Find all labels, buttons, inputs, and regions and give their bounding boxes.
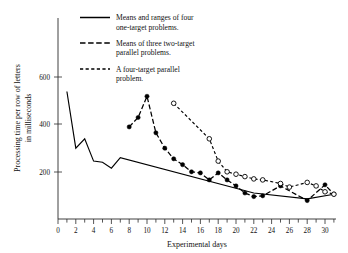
x-tick-label-6: 6 xyxy=(110,227,114,235)
chart-legend: Means and ranges of four one-target prob… xyxy=(80,13,195,83)
legend-label-one-target-line2: one-target problems. xyxy=(116,23,179,32)
series-two-target-markers xyxy=(127,94,336,202)
x-tick-label-0: 0 xyxy=(56,227,60,235)
x-tick-label-10: 10 xyxy=(143,227,151,235)
legend-label-four-target-line1: A four-target parallel xyxy=(116,65,180,74)
x-tick-label-26: 26 xyxy=(286,227,294,235)
x-axis-title: Experimental days xyxy=(167,240,227,249)
x-tick-label-14: 14 xyxy=(179,227,187,235)
x-tick-label-22: 22 xyxy=(250,227,258,235)
x-tick-label-16: 16 xyxy=(197,227,205,235)
legend-label-one-target-line1: Means and ranges of four xyxy=(116,13,194,22)
series-four-target-markers xyxy=(171,101,336,197)
y-tick-label-200: 200 xyxy=(39,169,50,177)
series-two-target-line xyxy=(129,96,334,200)
x-tick-label-4: 4 xyxy=(92,227,96,235)
x-tick-labels: 0 2 4 6 8 10 12 14 16 18 20 22 24 26 28 … xyxy=(56,227,329,235)
legend-label-two-target-line1: Means of three two-target xyxy=(116,39,195,48)
x-tick-label-2: 2 xyxy=(74,227,78,235)
series-four-target xyxy=(171,101,336,197)
legend-label-four-target-line2: problem. xyxy=(116,74,143,83)
x-axis-ticks xyxy=(58,219,334,224)
y-axis-title-line1: Processing time per row of letters xyxy=(13,64,22,172)
x-tick-label-8: 8 xyxy=(127,227,131,235)
x-tick-label-30: 30 xyxy=(321,227,329,235)
series-one-target-line xyxy=(67,92,334,199)
x-tick-label-24: 24 xyxy=(268,227,276,235)
x-tick-label-12: 12 xyxy=(161,227,169,235)
y-tick-label-600: 600 xyxy=(39,74,50,82)
legend-label-two-target-line2: parallel problems. xyxy=(116,48,171,57)
x-tick-label-20: 20 xyxy=(232,227,240,235)
series-one-target xyxy=(67,92,334,199)
y-axis-title-line2: in milliseconds xyxy=(24,94,33,143)
x-tick-label-18: 18 xyxy=(215,227,223,235)
series-two-target xyxy=(127,94,336,202)
chart-figure: 600 400 200 xyxy=(0,0,348,253)
chart-canvas: 600 400 200 xyxy=(0,0,348,253)
y-tick-label-400: 400 xyxy=(39,121,50,129)
x-tick-label-28: 28 xyxy=(304,227,312,235)
